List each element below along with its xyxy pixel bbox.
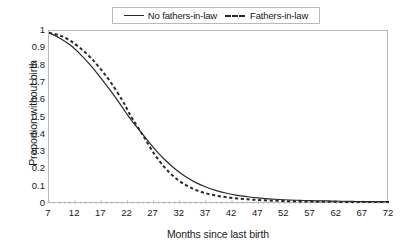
x-axis-title: Months since last birth bbox=[48, 228, 388, 240]
plot-area bbox=[48, 30, 388, 203]
legend-label-no-fathers-in-law: No fathers-in-law bbox=[148, 11, 217, 21]
legend-entry-fathers-in-law: Fathers-in-law bbox=[224, 11, 308, 21]
y-tick-label: 0.8 bbox=[5, 60, 45, 70]
y-tick-label: 0.9 bbox=[5, 42, 45, 52]
y-tick-label: 0.5 bbox=[5, 112, 45, 122]
chart-root: No fathers-in-law Fathers-in-law 10.90.8… bbox=[0, 0, 400, 251]
legend-entry-no-fathers-in-law: No fathers-in-law bbox=[124, 11, 217, 21]
y-tick-label: 0.3 bbox=[5, 146, 45, 156]
legend-line-dashed-icon bbox=[224, 12, 246, 19]
y-tick-label: 0.6 bbox=[5, 94, 45, 104]
plot-svg bbox=[49, 31, 389, 204]
y-tick-label: 0.7 bbox=[5, 77, 45, 87]
y-axis-title: Proportion without birth bbox=[27, 23, 39, 203]
series-line-no-fathers-in-law bbox=[49, 33, 389, 202]
legend-label-fathers-in-law: Fathers-in-law bbox=[250, 11, 308, 21]
y-tick-label: 0.2 bbox=[5, 163, 45, 173]
y-tick-label: 0 bbox=[5, 198, 45, 208]
legend-line-solid-icon bbox=[124, 12, 144, 19]
y-tick-label: 1 bbox=[5, 25, 45, 35]
x-tick-label: 72 bbox=[373, 208, 400, 218]
y-tick-label: 0.4 bbox=[5, 129, 45, 139]
chart-legend: No fathers-in-law Fathers-in-law bbox=[112, 7, 320, 24]
series-line-fathers-in-law bbox=[49, 33, 389, 202]
y-tick-label: 0.1 bbox=[5, 181, 45, 191]
